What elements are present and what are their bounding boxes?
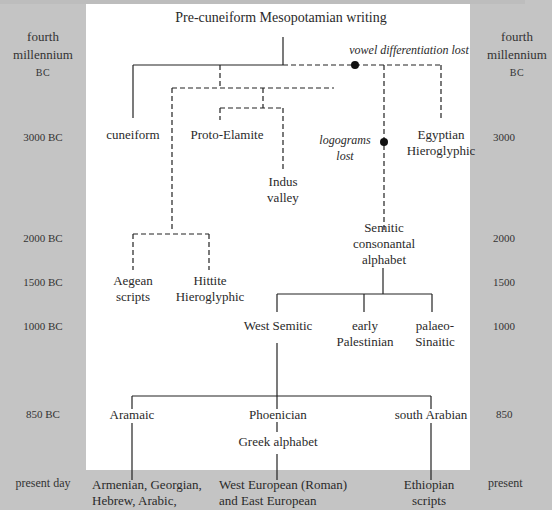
node-cuneiform: cuneiform bbox=[100, 127, 166, 143]
node-indus-valley: Indus valley bbox=[256, 174, 310, 206]
node-label: scripts bbox=[106, 289, 160, 305]
vowel-loss-marker bbox=[351, 61, 359, 69]
node-proto-elamite: Proto-Elamite bbox=[182, 127, 272, 143]
node-label: valley bbox=[256, 190, 310, 206]
node-aegean-scripts: Aegean scripts bbox=[106, 273, 160, 305]
node-label: Hieroglyphic bbox=[172, 289, 248, 305]
node-label: Sinaitic bbox=[410, 334, 460, 350]
node-west-semitic: West Semitic bbox=[237, 318, 319, 334]
node-label: Hebrew, Arabic, bbox=[92, 493, 212, 509]
node-label: Hittite bbox=[172, 273, 248, 289]
node-west-east-european: West European (Roman) and East European bbox=[219, 477, 359, 509]
node-label: palaeo- bbox=[410, 318, 460, 334]
node-label: Semitic bbox=[344, 220, 424, 236]
node-label: Ethiopian bbox=[392, 477, 466, 493]
node-label: Hieroglyphic bbox=[400, 143, 482, 159]
node-palaeo-sinaitic: palaeo- Sinaitic bbox=[410, 318, 460, 350]
node-label: Aegean bbox=[106, 273, 160, 289]
node-label: early bbox=[330, 318, 400, 334]
node-label: Palestinian bbox=[330, 334, 400, 350]
node-armenian-georgian-hebrew-arabic: Armenian, Georgian, Hebrew, Arabic, bbox=[92, 477, 212, 509]
node-aramaic: Aramaic bbox=[104, 407, 160, 423]
node-label: West European (Roman) bbox=[219, 477, 359, 493]
node-south-arabian: south Arabian bbox=[385, 407, 477, 423]
annotation-vowel-differentiation-lost: vowel differentiation lost bbox=[344, 42, 474, 58]
node-label: alphabet bbox=[344, 252, 424, 268]
node-greek-alphabet: Greek alphabet bbox=[231, 434, 325, 450]
node-label: Indus bbox=[256, 174, 310, 190]
node-label: Armenian, Georgian, bbox=[92, 477, 212, 493]
node-phoenician: Phoenician bbox=[240, 407, 316, 423]
logogram-loss-marker bbox=[380, 138, 388, 146]
annotation-lost: lost bbox=[318, 148, 372, 164]
node-label: scripts bbox=[392, 493, 466, 509]
node-label: consonantal bbox=[344, 236, 424, 252]
root-node-title: Pre-cuneiform Mesopotamian writing bbox=[150, 10, 412, 26]
node-egyptian-hieroglyphic: Egyptian Hieroglyphic bbox=[400, 127, 482, 159]
node-ethiopian-scripts: Ethiopian scripts bbox=[392, 477, 466, 509]
node-hittite-hieroglyphic: Hittite Hieroglyphic bbox=[172, 273, 248, 305]
node-label: Egyptian bbox=[400, 127, 482, 143]
annotation-logograms: logograms bbox=[318, 132, 372, 148]
node-semitic-consonantal-alphabet: Semitic consonantal alphabet bbox=[344, 220, 424, 268]
node-early-palestinian: early Palestinian bbox=[330, 318, 400, 350]
node-label: and East European bbox=[219, 493, 359, 509]
